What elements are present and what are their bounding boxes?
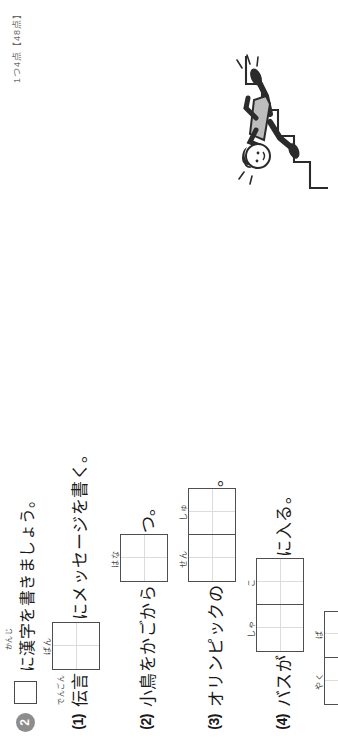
answer-box-group[interactable]: はな: [120, 533, 172, 585]
worksheet-instruction-row: 2 にかんじ漢字を書きましょう。: [8, 492, 42, 733]
question-row: (4)バスがしゃこに入る。: [250, 487, 314, 748]
question-sentence: 小鳥をかごからはなつ。: [120, 499, 172, 708]
answer-cell-furigana: せん: [177, 536, 188, 582]
instruction-kanji-ruby: かんじ漢字: [14, 623, 38, 656]
answer-cell[interactable]: しゅ: [189, 490, 235, 536]
question-sentence: でんごん伝言ばんにメッセージを書く。: [52, 445, 104, 707]
answer-cell[interactable]: せん: [189, 536, 235, 582]
score-note: 1つ4点【48点】: [10, 9, 23, 83]
answer-boxes[interactable]: やくば: [324, 611, 338, 705]
question-number: (1): [70, 714, 86, 748]
sentence-text-segment: にメッセージを書く。: [66, 445, 91, 620]
question-number: (3): [206, 714, 222, 748]
answer-box-group[interactable]: しゃこ: [256, 557, 308, 655]
answer-box-group[interactable]: やくば: [324, 609, 338, 707]
person-running-up-stairs-icon: [236, 16, 332, 192]
instruction-empty-box-icon: [14, 681, 37, 704]
answer-cell-furigana: やく: [313, 658, 324, 704]
instruction-text: にかんじ漢字を書きましょう。: [14, 492, 38, 673]
question-sentence: オリンピックのせんしゅ。: [188, 469, 240, 707]
sentence-text-segment: 。: [202, 469, 227, 487]
answer-box-group[interactable]: ばん: [52, 620, 104, 672]
sentence-text-segment: つ。: [134, 499, 159, 533]
answer-cell[interactable]: ば: [325, 612, 338, 658]
answer-boxes[interactable]: せんしゅ: [188, 489, 236, 583]
answer-boxes[interactable]: しゃこ: [256, 559, 304, 653]
instruction-kanji-furigana: かんじ: [3, 623, 13, 656]
question-row: (3)オリンピックのせんしゅ。: [182, 469, 246, 748]
answer-cell[interactable]: はな: [121, 536, 167, 582]
question-row: (5)やくばにつとめる。: [318, 504, 338, 748]
answer-cell-furigana: ばん: [41, 623, 52, 669]
answer-box-group[interactable]: せんしゅ: [188, 487, 240, 585]
instruction-kanji-base: 漢字: [14, 623, 38, 656]
answer-cell-furigana: ば: [313, 612, 324, 657]
question-number: (2): [138, 714, 154, 748]
sentence-text-segment: バスが: [270, 655, 295, 708]
furigana-text: でんごん: [55, 672, 65, 707]
worksheet-page: 2 にかんじ漢字を書きましょう。 1つ4点【48点】 (1)でんごん伝言ばんにメ…: [0, 0, 338, 748]
instruction-suffix: を書きましょう。: [19, 492, 36, 623]
sentence-text-segment: オリンピックの: [202, 585, 227, 708]
page-rotation-wrapper: 2 にかんじ漢字を書きましょう。 1つ4点【48点】 (1)でんごん伝言ばんにメ…: [0, 0, 338, 748]
question-sentence: やくばにつとめる。: [324, 504, 338, 707]
answer-cell[interactable]: ばん: [53, 623, 99, 669]
answer-cell[interactable]: やく: [325, 658, 338, 704]
answer-cell-furigana: はな: [109, 536, 120, 582]
answer-cell[interactable]: しゃ: [257, 606, 303, 652]
answer-cell-furigana: しゃ: [245, 606, 256, 652]
sentence-text-segment: に入る。: [270, 487, 295, 557]
question-row: (1)でんごん伝言ばんにメッセージを書く。: [46, 445, 110, 748]
answer-boxes[interactable]: はな: [120, 535, 168, 583]
answer-cell-furigana: こ: [245, 560, 256, 605]
question-sentence: バスがしゃこに入る。: [256, 487, 308, 708]
sentence-text-segment: 小鳥をかごから: [134, 585, 159, 708]
answer-cell-furigana: しゅ: [177, 490, 188, 535]
question-row: (2)小鳥をかごからはなつ。: [114, 499, 178, 748]
question-number: (4): [274, 714, 290, 748]
instruction-prefix: に: [19, 656, 36, 673]
exercise-number-badge: 2: [16, 713, 35, 732]
answer-cell[interactable]: こ: [257, 560, 303, 606]
sentence-text-segment: でんごん伝言: [66, 672, 91, 707]
answer-boxes[interactable]: ばん: [52, 622, 100, 670]
ruby-annotation: でんごん伝言: [66, 672, 91, 707]
ruby-base-text: 伝言: [66, 672, 91, 707]
